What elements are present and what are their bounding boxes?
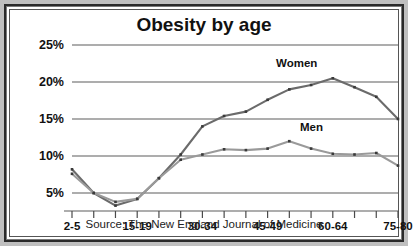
data-point: [179, 153, 182, 156]
data-point: [92, 192, 95, 195]
data-point: [353, 153, 356, 156]
data-point: [223, 148, 226, 151]
data-point: [179, 158, 182, 161]
data-point: [114, 201, 117, 204]
data-point: [71, 168, 74, 171]
data-point: [136, 198, 139, 201]
series-line-women: [72, 78, 398, 205]
data-point: [114, 204, 117, 207]
data-point: [375, 152, 378, 155]
data-point: [310, 147, 313, 150]
source-note: Source: The New England Journal of Medic…: [10, 218, 398, 230]
data-point: [201, 153, 204, 156]
data-point: [397, 164, 400, 167]
series-label-women: Women: [276, 57, 317, 69]
data-point: [245, 110, 248, 113]
data-point: [223, 115, 226, 118]
data-point: [353, 86, 356, 89]
chart-inner-frame: Obesity by age 5%10%15%20%25% 2-515-1930…: [9, 9, 399, 237]
data-point: [158, 177, 161, 180]
plot-area: [10, 10, 417, 246]
data-point: [71, 173, 74, 176]
chart-outer-frame: Obesity by age 5%10%15%20%25% 2-515-1930…: [4, 4, 404, 242]
data-point: [201, 125, 204, 128]
series-label-men: Men: [300, 121, 323, 133]
data-point: [332, 77, 335, 80]
data-point: [288, 88, 291, 91]
data-point: [266, 147, 269, 150]
data-point: [375, 96, 378, 99]
data-point: [397, 118, 400, 121]
data-point: [266, 99, 269, 102]
data-point: [332, 153, 335, 156]
data-point: [245, 149, 248, 152]
data-point: [310, 84, 313, 87]
data-point: [288, 140, 291, 143]
